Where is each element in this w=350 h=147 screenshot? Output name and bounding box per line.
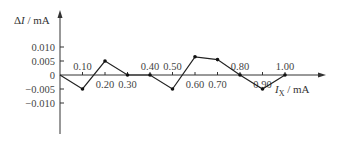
y-axis-arrow-icon [58,10,63,18]
y-tick-label: 0 [50,70,55,81]
y-tick-label: −0.005 [25,84,55,95]
data-point [193,55,197,59]
x-tick-label: 0.20 [96,79,114,90]
data-point [126,73,130,77]
data-point [171,87,175,91]
y-axis-title: ΔI / mA [14,14,50,26]
x-tick-label: 0.30 [118,79,136,90]
data-point [238,73,242,77]
x-tick-label: 0.10 [73,61,91,72]
x-axis-arrow-icon [318,73,326,78]
y-ticks: 0.0100.0050−0.005−0.010 [25,42,64,109]
y-tick-label: 0.010 [31,42,55,53]
data-point [261,87,265,91]
x-axis-title: IX / mA [274,83,310,98]
data-point [81,87,85,91]
data-point [283,73,287,77]
data-point [216,58,220,62]
x-tick-label: 0.50 [163,61,181,72]
y-tick-label: −0.010 [25,98,55,109]
axes [58,10,327,134]
data-point [103,59,107,63]
chart: 0.0100.0050−0.005−0.010 0.100.200.300.40… [0,0,350,147]
y-tick-label: 0.005 [31,56,55,67]
x-tick-label: 0.70 [208,79,226,90]
x-tick-label: 0.40 [141,61,159,72]
x-tick-label: 1.00 [276,61,294,72]
x-tick-label: 0.60 [186,79,204,90]
data-point [148,73,152,77]
